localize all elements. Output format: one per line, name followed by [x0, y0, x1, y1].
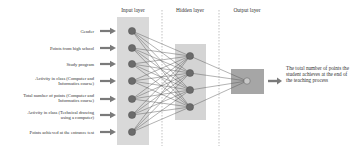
input-arrow-icon: [100, 61, 116, 67]
hidden-node: [186, 86, 193, 93]
output-arrow-icon: [268, 78, 282, 85]
output-layer-title: Output layer: [222, 7, 272, 13]
neural-network-diagram: Input layer Hidden layer Output layer Ge…: [0, 0, 354, 152]
input-label-study-program: Study program: [24, 62, 94, 67]
input-label-total-points-computer: Total number of points (Computer and Inf…: [16, 93, 94, 104]
input-arrow-icon: [100, 78, 116, 84]
input-node: [128, 95, 135, 102]
input-node: [128, 44, 135, 51]
hidden-node: [186, 103, 193, 110]
input-label-entrance-test: Points achieved at the entrance test: [4, 130, 94, 135]
input-label-high-school-points: Points from high school: [14, 46, 94, 51]
input-arrow-icon: [100, 28, 116, 34]
input-label-gender: Gender: [24, 29, 94, 34]
hidden-node: [186, 69, 193, 76]
input-arrow-icon: [100, 96, 116, 102]
input-node: [128, 128, 135, 135]
input-arrow-icon: [100, 112, 116, 118]
input-node: [128, 60, 135, 67]
input-layer-title: Input layer: [108, 7, 158, 13]
input-arrow-icon: [100, 45, 116, 51]
input-label-activity-computer: Activity in class (Computer and Informat…: [24, 76, 94, 87]
input-node: [128, 27, 135, 34]
input-arrow-icon: [100, 129, 116, 135]
input-arrows: [100, 28, 116, 135]
hidden-node: [186, 52, 193, 59]
input-node: [128, 77, 135, 84]
hidden-layer-title: Hidden layer: [165, 7, 215, 13]
output-node: [244, 78, 250, 84]
output-label: The total number of points the student a…: [286, 65, 352, 84]
input-node: [128, 111, 135, 118]
input-label-activity-technical: Activity in class (Technical drawing usi…: [26, 110, 94, 121]
